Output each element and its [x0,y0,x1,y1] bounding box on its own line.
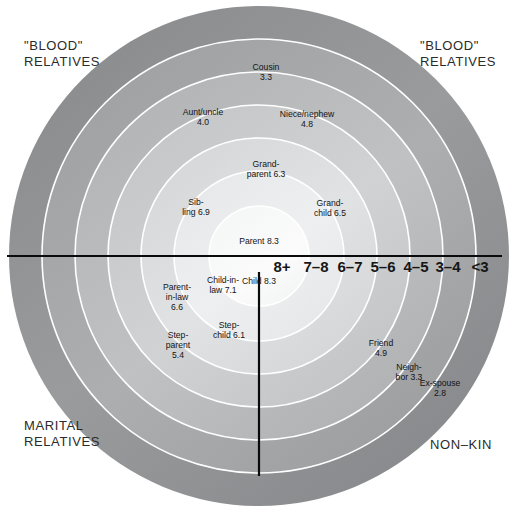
quadrant-label-top-left: "BLOOD" RELATIVES [24,38,100,70]
scale-tick-5: 3–4 [435,258,460,275]
relationship-label-niece-nephew: Niece/nephew 4.8 [280,109,334,129]
relationship-label-step-child: Step- child 6.1 [213,320,245,340]
quadrant-label-top-right: "BLOOD" RELATIVES [420,38,496,70]
relationship-label-grandchild: Grand- child 6.5 [314,198,346,218]
scale-tick-2: 6–7 [337,258,362,275]
relationship-label-grandparent: Grand- parent 6.3 [247,159,286,179]
relationship-label-neighbor: Neigh- bor 3.3 [396,362,423,382]
scale-tick-4: 4–5 [403,258,428,275]
relationship-label-parent: Parent 8.3 [239,236,279,246]
scale-tick-3: 5–6 [370,258,395,275]
relationship-label-step-parent: Step- parent 5.4 [166,330,190,360]
relationship-label-parent-in-law: Parent- in-law 6.6 [163,282,191,312]
scale-tick-1: 7–8 [303,258,328,275]
relationship-label-aunt-uncle: Aunt/uncle 4.0 [183,107,224,127]
relationship-label-ex-spouse: Ex-spouse 2.8 [420,378,461,398]
relationship-label-child: Child 8.3 [242,276,276,286]
scale-tick-0: 8+ [273,258,290,275]
relationship-label-child-in-law: Child-in- law 7.1 [207,275,239,295]
relationship-label-friend: Friend 4.9 [369,338,393,358]
figure-canvas: "BLOOD" RELATIVES "BLOOD" RELATIVES MARI… [0,0,510,512]
relationship-label-cousin: Cousin 3.3 [253,62,280,82]
quadrant-label-bottom-right: NON–KIN [430,437,492,453]
scale-tick-6: <3 [471,258,488,275]
quadrant-label-bottom-left: MARITAL RELATIVES [24,418,100,450]
relationship-label-sibling: Sib- ling 6.9 [182,197,210,217]
